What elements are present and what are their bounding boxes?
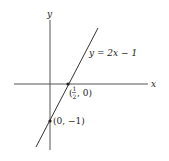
x-intercept-point: [66, 82, 69, 85]
svg-text:, 0): , 0): [77, 88, 92, 98]
graph-canvas: x y y = 2x − 1 ( 1 2 , 0) (0, −1): [0, 0, 169, 161]
y-axis-label: y: [46, 9, 53, 19]
svg-text:2: 2: [73, 93, 77, 100]
y-intercept-point: [48, 119, 51, 122]
svg-text:1: 1: [73, 85, 77, 92]
y-intercept-label: (0, −1): [53, 116, 85, 126]
x-intercept-label: ( 1 2 , 0): [69, 85, 92, 100]
x-axis-label: x: [151, 79, 156, 89]
line-equation-label: y = 2x − 1: [88, 48, 137, 58]
